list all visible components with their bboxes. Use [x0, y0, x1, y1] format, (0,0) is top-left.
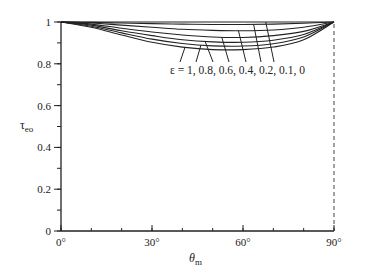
- x-tick-label: 90°: [326, 236, 341, 248]
- axes: 00.20.40.60.810°30°60°90°: [37, 16, 341, 248]
- y-tick-label: 0.6: [37, 100, 51, 112]
- x-tick-label: 30°: [144, 236, 159, 248]
- y-tick-label: 1: [46, 16, 52, 28]
- y-axis-label: τeo: [20, 118, 34, 134]
- annotation-pointer: [196, 45, 201, 62]
- x-tick-label: 0°: [56, 236, 66, 248]
- chart-canvas: 00.20.40.60.810°30°60°90° ε = 1, 0.8, 0.…: [0, 0, 369, 276]
- y-tick-label: 0.4: [37, 141, 51, 153]
- y-tick-label: 0.2: [37, 183, 51, 195]
- curves: [61, 22, 334, 50]
- y-tick-label: 0: [46, 225, 52, 237]
- annotation-pointer: [205, 41, 213, 62]
- x-tick-label: 60°: [235, 236, 250, 248]
- epsilon-annotation: ε = 1, 0.8, 0.6, 0.4, 0.2, 0.1, 0: [170, 64, 305, 77]
- annotation-pointer: [266, 22, 274, 62]
- annotation-pointer: [180, 47, 185, 62]
- x-axis-label: θm: [189, 251, 202, 267]
- y-tick-label: 0.8: [37, 58, 51, 70]
